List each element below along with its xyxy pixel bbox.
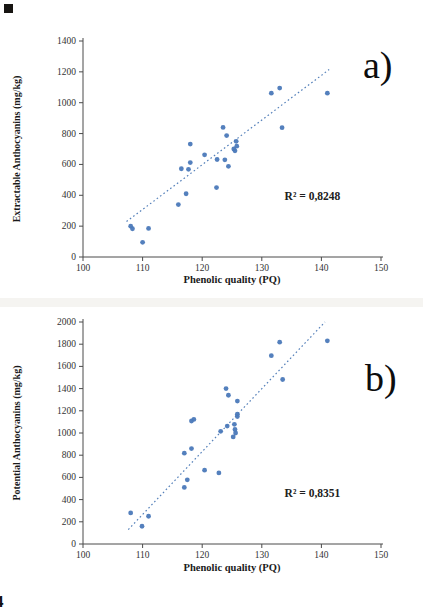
data-point xyxy=(140,524,145,529)
page-number: 4 xyxy=(0,592,4,612)
data-point xyxy=(146,226,151,231)
data-point xyxy=(325,91,330,96)
y-tick-label: 1000 xyxy=(57,428,76,438)
r-squared-label: R² = 0,8351 xyxy=(285,487,341,499)
x-tick-label: 120 xyxy=(195,550,210,560)
data-point xyxy=(325,338,330,343)
y-tick-label: 1000 xyxy=(57,98,76,108)
panel-letter: a) xyxy=(363,44,393,87)
x-tick-label: 110 xyxy=(136,263,150,273)
data-point xyxy=(130,226,135,231)
x-tick-label: 110 xyxy=(136,550,150,560)
data-point xyxy=(226,164,231,169)
y-tick-label: 0 xyxy=(71,252,76,262)
panel-letter: b) xyxy=(365,357,397,400)
data-point xyxy=(191,417,196,422)
x-tick-label: 100 xyxy=(76,550,91,560)
scatter-chart-potential-anthocyanins: 0200400600800100012001400160018002000100… xyxy=(0,300,423,614)
data-point xyxy=(235,399,240,404)
data-point xyxy=(202,152,207,157)
data-point xyxy=(176,202,181,207)
y-axis-title: Extractable Anthocyanins (mg/kg) xyxy=(11,76,23,223)
data-point xyxy=(226,393,231,398)
data-point xyxy=(269,353,274,358)
data-point xyxy=(140,240,145,245)
data-point xyxy=(234,139,239,144)
data-point xyxy=(277,86,282,91)
y-tick-label: 400 xyxy=(62,495,77,505)
data-point xyxy=(269,91,274,96)
scatter-panel-b: 0200400600800100012001400160018002000100… xyxy=(0,300,423,614)
y-tick-label: 1400 xyxy=(57,384,76,394)
data-point xyxy=(215,157,220,162)
y-tick-label: 200 xyxy=(62,517,77,527)
y-tick-label: 1200 xyxy=(57,406,76,416)
x-tick-label: 140 xyxy=(314,550,329,560)
data-point xyxy=(235,414,240,419)
figure-page: 0200400600800100012001400100110120130140… xyxy=(0,0,423,614)
y-axis-title: Potential Anthocyanins (mg/kg) xyxy=(11,365,23,500)
data-point xyxy=(216,471,221,476)
data-point xyxy=(233,148,238,153)
data-point xyxy=(280,377,285,382)
data-point xyxy=(184,191,189,196)
scatter-panel-a: 0200400600800100012001400100110120130140… xyxy=(0,0,423,307)
data-point xyxy=(224,133,229,138)
data-point xyxy=(214,185,219,190)
r-squared-label: R² = 0,8248 xyxy=(285,190,341,202)
data-point xyxy=(146,514,151,519)
data-point xyxy=(189,446,194,451)
y-tick-label: 1200 xyxy=(57,67,76,77)
y-tick-label: 1600 xyxy=(57,361,76,371)
data-point xyxy=(185,477,190,482)
data-point xyxy=(222,157,227,162)
y-tick-label: 1400 xyxy=(57,36,76,46)
y-tick-label: 200 xyxy=(62,221,77,231)
x-tick-label: 130 xyxy=(255,263,270,273)
data-point xyxy=(188,160,193,165)
y-tick-label: 400 xyxy=(62,190,77,200)
x-tick-label: 130 xyxy=(255,550,270,560)
data-point xyxy=(182,451,187,456)
x-axis-title: Phenolic quality (PQ) xyxy=(184,562,281,574)
data-point xyxy=(280,125,285,130)
data-point xyxy=(234,144,239,149)
data-point xyxy=(186,167,191,172)
data-point xyxy=(231,434,236,439)
x-tick-label: 120 xyxy=(195,263,210,273)
y-tick-label: 600 xyxy=(62,159,77,169)
y-tick-label: 600 xyxy=(62,472,77,482)
y-tick-label: 800 xyxy=(62,129,77,139)
data-point xyxy=(277,340,282,345)
data-point xyxy=(224,386,229,391)
y-tick-label: 2000 xyxy=(57,317,76,327)
data-point xyxy=(128,511,133,516)
x-tick-label: 100 xyxy=(76,263,91,273)
data-point xyxy=(225,424,230,429)
x-tick-label: 140 xyxy=(314,263,329,273)
data-point xyxy=(179,166,184,171)
x-axis-title: Phenolic quality (PQ) xyxy=(184,274,281,286)
data-point xyxy=(232,422,237,427)
scatter-chart-extractable-anthocyanins: 0200400600800100012001400100110120130140… xyxy=(0,0,423,307)
data-point xyxy=(221,125,226,130)
x-tick-label: 150 xyxy=(374,550,389,560)
data-point xyxy=(188,142,193,147)
x-tick-label: 150 xyxy=(374,263,389,273)
y-tick-label: 0 xyxy=(71,539,76,549)
y-tick-label: 800 xyxy=(62,450,77,460)
y-tick-label: 1800 xyxy=(57,339,76,349)
data-point xyxy=(218,429,223,434)
data-point xyxy=(182,485,187,490)
data-point xyxy=(202,468,207,473)
